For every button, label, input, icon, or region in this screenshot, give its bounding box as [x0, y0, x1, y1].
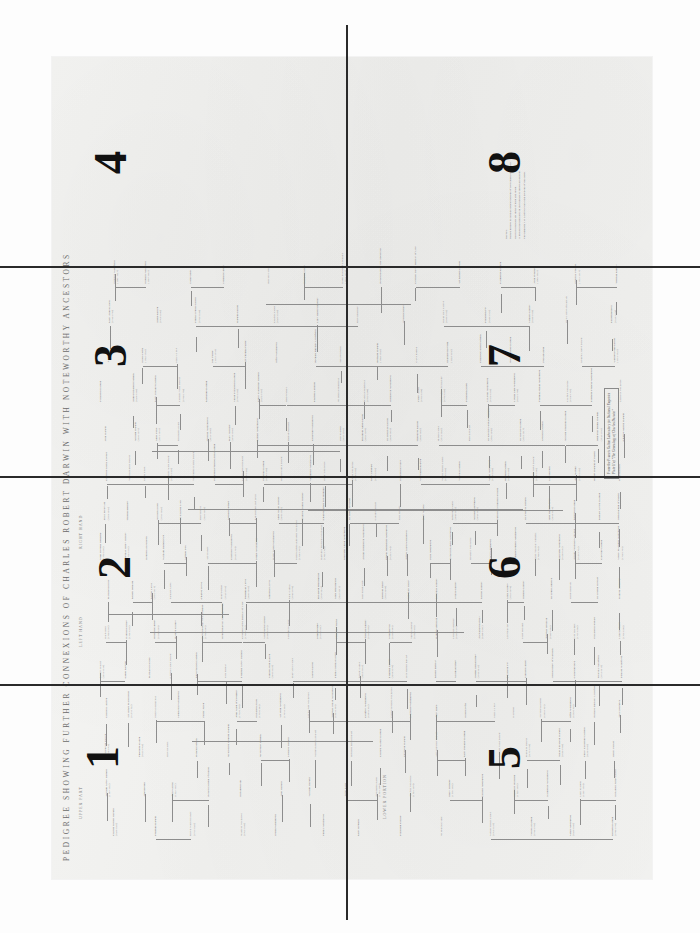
node-dates: (1730-1799): [238, 689, 241, 717]
pedigree-node: Sir Thomas Farrer: [244, 340, 247, 362]
pedigree-node: Hudson Gurney: [522, 580, 525, 599]
connector-horizontal: [622, 688, 623, 705]
node-name: Colonel David Barclay of Urie: [413, 246, 417, 283]
connector-horizontal: [423, 516, 424, 544]
connector-horizontal: [335, 688, 336, 700]
pedigree-node: Godfrey Wedgwood(1845-1912): [364, 693, 370, 717]
connector-vertical: [466, 721, 494, 722]
pedigree-node: Ambrose Lloyd: [268, 580, 271, 599]
connector-horizontal: [410, 794, 411, 812]
node-name: Elizabeth Collier: [398, 815, 402, 836]
pedigree-node: Ellen Crofts: [464, 703, 467, 718]
pedigree-node: Elizabeth Darwin: [99, 381, 102, 402]
pedigree-node: Sir Horace Darwin: [259, 734, 262, 757]
node-name: Robert Darwin of Elston: [206, 767, 210, 797]
scan-background: PEDIGREE SHOWING FURTHER CONNEXIONS OF C…: [0, 0, 700, 933]
connector-horizontal: [430, 563, 431, 578]
pedigree-node: John Darwin: [104, 426, 107, 441]
section-number-7: 7: [482, 344, 528, 367]
connector-horizontal: [456, 608, 457, 627]
pedigree-node: Robert Barclay: [356, 306, 359, 322]
node-name: Marianne Darwin: [204, 381, 208, 402]
node-dates: (1748-1832): [354, 461, 357, 481]
node-name: Hubert Galton: [166, 742, 169, 758]
node-dates: (1815-1891): [158, 428, 161, 442]
node-dates: (1887-1962): [361, 662, 364, 678]
connector-vertical: [571, 602, 597, 603]
pedigree-node: Effie Wedgwood: [275, 342, 278, 362]
connector-horizontal: [404, 321, 405, 346]
node-name: Swinton Colthurst Holland: [495, 488, 499, 520]
connector-vertical: [366, 721, 392, 722]
connector-horizontal: [619, 613, 620, 630]
pedigree-node: Alexander Barclay(1804-1881): [478, 616, 484, 639]
node-name: Gilbert Wedgwood: [255, 419, 259, 442]
connector-vertical: [436, 681, 456, 682]
node-name: John Gurney of Earlham: [565, 296, 568, 323]
node-name: Henrietta Emma Darwin: [350, 731, 353, 758]
node-name: Charles Langton: [312, 382, 316, 402]
pedigree-node: Charles Lloyd: [200, 582, 203, 599]
node-name: Nora Barlow: [541, 347, 545, 363]
connector-vertical: [158, 523, 181, 524]
fold-line-horizontal-1: [0, 266, 700, 268]
node-name: Rowland Wedgwood: [469, 537, 472, 560]
node-dates: (1700-1780): [379, 343, 382, 362]
connector-horizontal: [535, 559, 536, 576]
connector-horizontal: [567, 320, 568, 344]
connector-horizontal: [387, 456, 388, 471]
connector-vertical: [264, 484, 282, 485]
node-dates: (1872-1958): [413, 622, 416, 639]
connector-vertical: [261, 760, 289, 761]
connector-horizontal: [364, 568, 365, 586]
pedigree-node: Ellen Crofts(1702-1760): [141, 348, 147, 363]
connector-horizontal: [552, 610, 553, 631]
pedigree-node: Daniel Bell: [189, 270, 192, 284]
node-dates: (1655-1722): [130, 691, 133, 718]
node-dates: (1681-1754): [516, 373, 519, 402]
connector-vertical: [191, 287, 224, 288]
node-name: Hope Elizabeth Wedgwood: [448, 527, 452, 560]
connector-vertical: [289, 445, 313, 446]
node-dates: (1850-1928): [531, 304, 534, 323]
connector-horizontal: [405, 750, 406, 773]
node-name: Anne Elizabeth Darwin: [131, 374, 135, 402]
node-name: Alexander Barclay: [477, 616, 481, 639]
node-name: Sir Joseph Hooker: [595, 577, 599, 599]
pedigree-node: Richard Buckley Litchfield: [593, 685, 596, 718]
node-name: John Darwin: [103, 426, 107, 441]
node-name: William Darwin: [307, 777, 311, 796]
pedigree-node: Samuel Tertius Galton(1765-1817): [489, 812, 495, 836]
connector-horizontal: [441, 389, 442, 417]
node-name: Henrietta Heathorn: [144, 537, 148, 560]
node-dates: (1808-1896): [572, 815, 575, 836]
connector-horizontal: [570, 729, 571, 743]
connector-horizontal: [377, 366, 378, 381]
pedigree-node: Sir James Mackintosh: [337, 378, 340, 402]
pedigree-node: Lucy Galton(1872-1958): [339, 426, 345, 441]
connector-vertical: [521, 445, 543, 446]
node-name: Sir Thomas Farrer: [243, 340, 247, 362]
connector-horizontal: [619, 529, 620, 546]
pedigree-node: Emma Wedgwood(1748-1832): [351, 461, 357, 481]
connector-vertical: [346, 800, 377, 801]
node-dates: (1620-1692): [586, 728, 589, 758]
connector-horizontal: [580, 799, 581, 825]
node-name: Margaret Keynes: [147, 657, 151, 678]
connector-horizontal: [289, 759, 290, 782]
node-name: Sir James Mackintosh: [337, 378, 340, 402]
pedigree-node: Mary Howard: [357, 819, 360, 836]
connector-vertical: [575, 523, 599, 524]
connector-vertical: [316, 366, 341, 367]
connector-horizontal: [407, 554, 408, 576]
pedigree-node: Violetta Darwin: [458, 462, 461, 481]
pedigree-node: John Hodgkin(1731-1802): [573, 623, 579, 638]
connector-horizontal: [452, 532, 453, 545]
node-dates: (1766-1848): [490, 408, 493, 441]
node-dates: (1809-1882): [115, 808, 118, 836]
connector-vertical: [315, 405, 339, 406]
connector-vertical: [581, 800, 616, 801]
node-dates: (1848-1925): [543, 698, 546, 718]
pedigree-node: Henrietta Heathorn: [145, 537, 148, 560]
pedigree-node: Sarah Wedgwood(1808-1896): [569, 815, 575, 836]
